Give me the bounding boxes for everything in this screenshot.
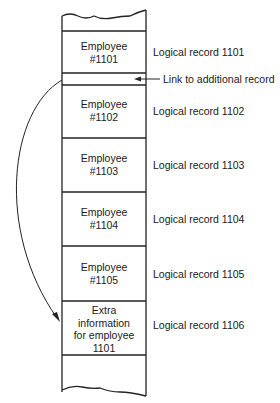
- cell-line: for employee: [62, 329, 146, 342]
- record-cell-1104: Employee #1104: [62, 206, 146, 231]
- cell-line: #1104: [62, 219, 146, 232]
- link-pointer-arrowhead: [134, 77, 141, 82]
- cell-line: Extra: [62, 304, 146, 317]
- link-label: Link to additional record: [163, 73, 275, 85]
- record-label: Logical record 1103: [153, 159, 244, 171]
- top-break-wave: [62, 10, 146, 19]
- record-cell-1106: Extra information for employee 1101: [62, 304, 146, 354]
- cell-line: #1102: [62, 111, 146, 124]
- cell-line: #1101: [62, 53, 146, 66]
- link-curve-arrowhead: [52, 312, 60, 322]
- record-label: Logical record 1104: [153, 213, 244, 225]
- cell-line: #1103: [62, 165, 146, 178]
- cell-line: Employee: [62, 206, 146, 219]
- cell-line: information: [62, 317, 146, 330]
- record-cell-1103: Employee #1103: [62, 152, 146, 177]
- record-cell-1102: Employee #1102: [62, 98, 146, 123]
- link-curve-arrow: [16, 80, 62, 318]
- cell-line: Employee: [62, 261, 146, 274]
- cell-line: Employee: [62, 152, 146, 165]
- record-cell-1101: Employee #1101: [62, 40, 146, 65]
- cell-line: #1105: [62, 274, 146, 287]
- cell-line: Employee: [62, 98, 146, 111]
- record-cell-1105: Employee #1105: [62, 261, 146, 286]
- record-label: Logical record 1102: [153, 105, 244, 117]
- cell-line: 1101: [62, 342, 146, 355]
- cell-line: Employee: [62, 40, 146, 53]
- record-label: Logical record 1106: [153, 319, 244, 331]
- record-label: Logical record 1105: [153, 268, 244, 280]
- record-label: Logical record 1101: [153, 46, 244, 58]
- bottom-break-wave: [62, 386, 146, 396]
